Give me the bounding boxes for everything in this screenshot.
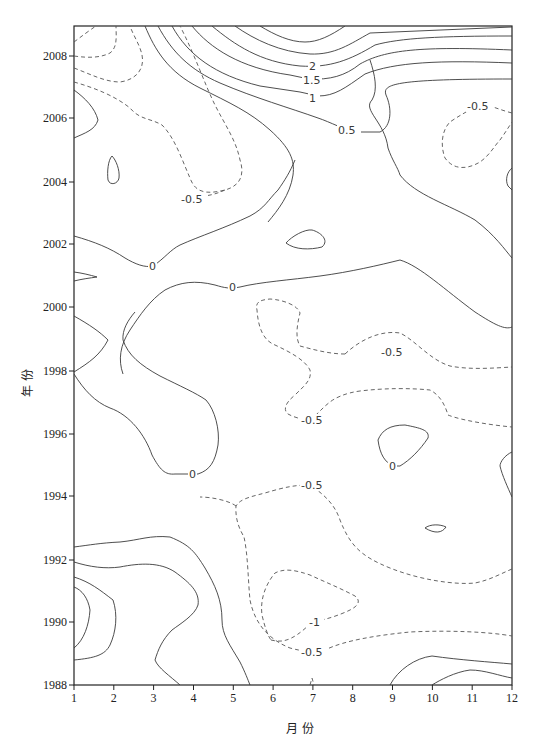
contour-label: -0.5 xyxy=(301,414,322,427)
x-tick-label: 9 xyxy=(390,691,396,705)
contour-chart: 1988 1990 1992 1994 1996 1998 2000 2002 … xyxy=(0,0,536,744)
y-axis: 1988 1990 1992 1994 1996 1998 2000 2002 … xyxy=(43,49,74,692)
y-tick-label: 2006 xyxy=(43,111,67,125)
x-tick-label: 4 xyxy=(191,691,197,705)
contour-label: -0.5 xyxy=(301,479,322,492)
y-tick-label: 2004 xyxy=(43,175,67,189)
y-axis-label: 年 份 xyxy=(21,369,35,397)
y-tick-label: 1996 xyxy=(43,427,67,441)
contour-label: 0.5 xyxy=(338,124,356,137)
x-tick-label: 6 xyxy=(270,691,276,705)
y-tick-label: 2002 xyxy=(43,237,67,251)
y-tick-label: 2000 xyxy=(43,300,67,314)
y-tick-label: 1994 xyxy=(43,489,67,503)
contour-labels: 2 1.5 1 0.5 -0.5 -0.5 0 0 -0.5 -0.5 0 0 … xyxy=(148,60,494,659)
x-axis: 1 2 3 4 5 6 7 8 9 10 11 12 xyxy=(71,685,518,705)
contour-label: 1 xyxy=(309,92,316,105)
y-tick-label: 1988 xyxy=(43,678,67,692)
x-tick-label: 8 xyxy=(350,691,356,705)
contour-label: 0 xyxy=(389,460,396,473)
x-tick-label: 10 xyxy=(426,691,438,705)
contour-label: 2 xyxy=(309,60,316,73)
contour-label: 0 xyxy=(229,281,236,294)
contour-label: 0 xyxy=(149,260,156,273)
x-tick-label: 2 xyxy=(111,691,117,705)
x-axis-label: 月 份 xyxy=(286,722,314,736)
x-tick-label: 1 xyxy=(71,691,77,705)
y-tick-label: 1992 xyxy=(43,553,67,567)
plot-frame xyxy=(74,26,512,685)
x-tick-label: 3 xyxy=(151,691,157,705)
x-tick-label: 11 xyxy=(466,691,478,705)
contour-label: -1 xyxy=(309,616,320,629)
contour-label: -0.5 xyxy=(301,646,322,659)
y-tick-label: 1990 xyxy=(43,615,67,629)
contour-label: 0 xyxy=(189,468,196,481)
x-tick-label: 7 xyxy=(310,691,316,705)
contour-lines xyxy=(74,26,512,685)
contour-label: 1.5 xyxy=(303,74,321,87)
x-tick-label: 12 xyxy=(506,691,518,705)
y-tick-label: 1998 xyxy=(43,364,67,378)
contour-label: -0.5 xyxy=(467,100,488,113)
y-tick-label: 2008 xyxy=(43,49,67,63)
x-tick-label: 5 xyxy=(230,691,236,705)
contour-label: -0.5 xyxy=(181,193,202,206)
contour-label: -0.5 xyxy=(381,346,402,359)
